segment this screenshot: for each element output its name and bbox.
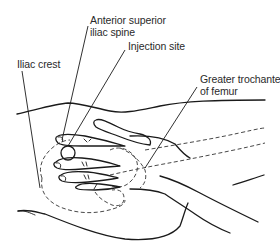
knee-line <box>233 175 264 185</box>
label-trochanter-line-2: of femur <box>200 85 280 97</box>
leader-asis <box>62 26 88 140</box>
thigh-upper-line <box>160 176 258 222</box>
ring-knuckle-mark <box>84 175 89 179</box>
leader-crest <box>22 71 40 188</box>
trochanter-outline <box>110 148 137 187</box>
label-greater-trochanter: Greater trochanter of femur <box>200 73 280 97</box>
thumb-base-outline <box>120 148 146 188</box>
index-knuckle-mark <box>84 139 91 142</box>
buttock-contour <box>18 203 188 240</box>
label-iliac-crest: Iliac crest <box>17 58 60 70</box>
label-asis-line-2: iliac spine <box>90 26 166 38</box>
hand-back <box>130 136 190 158</box>
leader-trochanter <box>145 87 197 168</box>
thumb <box>94 119 151 145</box>
label-injection-site: Injection site <box>128 40 185 52</box>
middle-knuckle-mark <box>82 162 87 166</box>
label-anterior-superior-iliac-spine: Anterior superior iliac spine <box>90 14 166 38</box>
hip-bone-outline <box>95 190 124 206</box>
label-crest-line-1: Iliac crest <box>17 58 60 70</box>
forearm-outline-lower <box>110 143 265 175</box>
leader-injection <box>68 50 125 146</box>
ventrogluteal-injection-diagram: Anterior superior iliac spine Injection … <box>0 0 280 248</box>
hip-contour <box>17 100 265 114</box>
little-knuckle-mark <box>94 184 97 189</box>
label-injection-line-1: Injection site <box>128 40 185 52</box>
middle-finger <box>54 158 120 170</box>
label-asis-line-1: Anterior superior <box>90 14 166 26</box>
label-trochanter-line-1: Greater trochanter <box>200 73 280 85</box>
